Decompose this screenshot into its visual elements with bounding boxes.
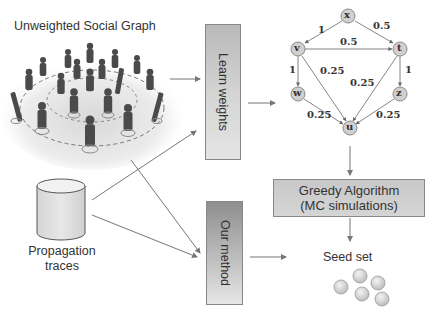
edge-weight-v-w: 1 bbox=[289, 64, 296, 75]
greedy-algorithm-box: Greedy Algorithm (MC simulations) bbox=[273, 179, 425, 217]
database-cylinder-icon bbox=[37, 179, 85, 240]
edge-weight-t-z: 1 bbox=[405, 64, 412, 75]
edge-weight-x-v: 1 bbox=[318, 24, 325, 35]
node-u-label: u bbox=[346, 121, 353, 132]
traces-label-line2: traces bbox=[28, 259, 96, 274]
traces-label-line1: Propagation bbox=[28, 244, 96, 259]
arrow-traces-to-method bbox=[92, 215, 197, 257]
edge-weight-x-t: 0.5 bbox=[373, 20, 390, 31]
edge-weight-v-t: 0.5 bbox=[340, 36, 357, 47]
node-t-label: t bbox=[397, 42, 402, 53]
edge-weight-w-u: 0.25 bbox=[307, 109, 331, 120]
seed-set-label: Seed set bbox=[323, 250, 372, 264]
social-graph-illustration bbox=[2, 43, 182, 170]
seed-set-balls bbox=[334, 269, 389, 306]
traces-label: Propagation traces bbox=[28, 244, 96, 274]
arrow-graph-to-method bbox=[131, 160, 200, 253]
node-v-label: v bbox=[294, 42, 300, 53]
edge-weight-z-u: 0.25 bbox=[376, 109, 400, 120]
edge-weight-v-u: 0.25 bbox=[320, 65, 344, 76]
node-z-label: z bbox=[396, 87, 402, 98]
greedy-label-line2: (MC simulations) bbox=[300, 198, 398, 213]
learn-weights-box: Learn weights bbox=[205, 24, 241, 160]
greedy-label-line1: Greedy Algorithm bbox=[299, 183, 399, 198]
node-x-label: x bbox=[344, 9, 350, 20]
our-method-box: Our method bbox=[206, 201, 243, 305]
edge-weight-t-u: 0.25 bbox=[350, 77, 374, 88]
our-method-label: Our method bbox=[218, 220, 232, 286]
learn-weights-label: Learn weights bbox=[216, 53, 230, 131]
node-w-label: w bbox=[293, 87, 302, 98]
